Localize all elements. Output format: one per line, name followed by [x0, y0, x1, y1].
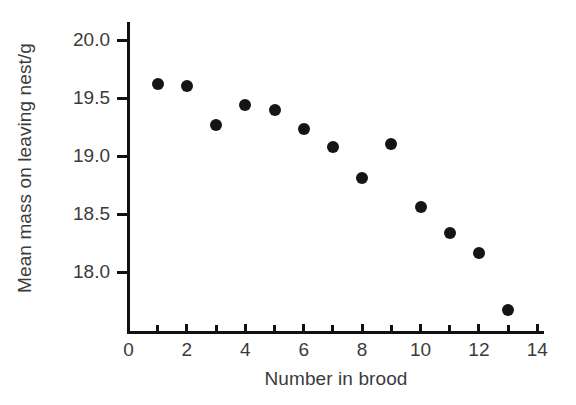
x-tick: [156, 325, 159, 334]
data-point: [415, 201, 427, 213]
y-tick-label: 19.0: [54, 145, 110, 167]
data-point: [298, 123, 310, 135]
x-tick-label: 12: [459, 339, 499, 361]
x-tick-label: 6: [284, 339, 324, 361]
y-tick: [117, 97, 128, 100]
x-tick: [127, 324, 130, 334]
y-tick-label: 19.5: [54, 87, 110, 109]
x-tick-label: 2: [167, 339, 207, 361]
x-tick-label: 14: [517, 339, 557, 361]
x-tick: [448, 325, 451, 334]
x-tick: [185, 324, 188, 334]
y-tick-label: 18.5: [54, 203, 110, 225]
y-tick: [117, 213, 128, 216]
data-point: [473, 247, 485, 259]
data-point: [502, 304, 514, 316]
y-tick: [117, 271, 128, 274]
x-tick: [536, 324, 539, 334]
x-tick-label: 8: [342, 339, 382, 361]
data-point: [152, 78, 164, 90]
data-point: [181, 80, 193, 92]
x-tick: [361, 324, 364, 334]
x-tick: [507, 325, 510, 334]
scatter-plot-figure: Mean mass on leaving nest/g Number in br…: [0, 0, 576, 405]
y-axis-line: [127, 22, 130, 334]
y-tick-label: 18.0: [54, 261, 110, 283]
data-point: [210, 119, 222, 131]
data-point: [356, 172, 368, 184]
data-point: [327, 141, 339, 153]
data-point: [444, 227, 456, 239]
x-tick: [273, 325, 276, 334]
y-tick: [117, 155, 128, 158]
y-tick: [117, 39, 128, 42]
x-tick: [302, 324, 305, 334]
x-tick-label: 4: [225, 339, 265, 361]
x-tick: [215, 325, 218, 334]
x-tick: [477, 324, 480, 334]
x-tick: [244, 324, 247, 334]
data-point: [239, 99, 251, 111]
y-tick-label: 20.0: [54, 29, 110, 51]
x-tick: [390, 325, 393, 334]
x-tick: [331, 325, 334, 334]
x-tick-label: 10: [401, 339, 441, 361]
x-tick-label: 0: [109, 339, 149, 361]
plot-area: 18.018.519.019.520.0 02468101214: [0, 0, 576, 405]
data-point: [269, 104, 281, 116]
x-tick: [419, 324, 422, 334]
x-axis-line: [127, 331, 544, 334]
data-point: [385, 138, 397, 150]
